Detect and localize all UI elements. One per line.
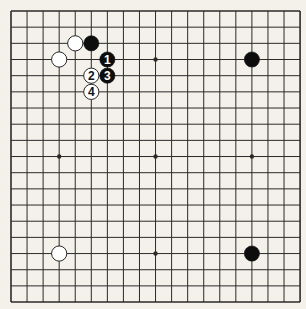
black-stone-icon xyxy=(244,52,259,67)
black-stone[interactable] xyxy=(244,52,259,67)
white-stone[interactable] xyxy=(68,36,83,51)
board-background xyxy=(0,0,306,309)
white-stone-icon xyxy=(68,36,83,51)
white-stone[interactable] xyxy=(52,246,67,261)
white-stone[interactable] xyxy=(52,52,67,67)
hoshi-point xyxy=(153,57,157,61)
black-stone[interactable] xyxy=(244,246,259,261)
black-stone[interactable]: 3 xyxy=(100,68,115,83)
move-number-label: 4 xyxy=(88,85,95,99)
black-stone[interactable] xyxy=(84,36,99,51)
hoshi-point xyxy=(250,154,254,158)
black-stone-icon xyxy=(244,246,259,261)
white-stone[interactable]: 2 xyxy=(84,68,99,83)
move-number-label: 1 xyxy=(104,53,111,67)
white-stone[interactable]: 4 xyxy=(84,84,99,99)
go-board[interactable]: 1234 xyxy=(0,0,306,309)
white-stone-icon xyxy=(52,52,67,67)
hoshi-point xyxy=(153,251,157,255)
white-stone-icon xyxy=(52,246,67,261)
move-number-label: 3 xyxy=(104,69,111,83)
black-stone-icon xyxy=(84,36,99,51)
move-number-label: 2 xyxy=(88,69,95,83)
hoshi-point xyxy=(153,154,157,158)
hoshi-point xyxy=(57,154,61,158)
black-stone[interactable]: 1 xyxy=(100,52,115,67)
go-board-grid[interactable]: 1234 xyxy=(0,0,306,309)
